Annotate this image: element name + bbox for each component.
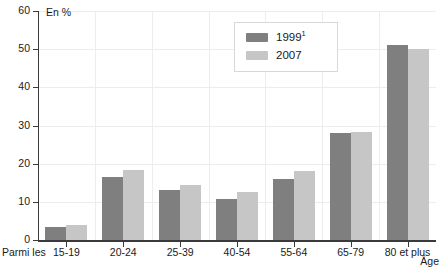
bar-2007-25-39 (180, 185, 201, 240)
unit-label: En % (46, 6, 71, 18)
gridline-vertical (209, 11, 210, 240)
bar-1999-25-39 (159, 190, 180, 240)
y-axis-tick (33, 87, 38, 88)
gridline-vertical (95, 11, 96, 240)
gridline-horizontal (38, 164, 436, 165)
bar-1999-65-79 (330, 133, 351, 240)
gridline-horizontal (38, 87, 436, 88)
gridline-horizontal (38, 11, 436, 12)
legend: 19991 2007 (234, 22, 338, 72)
legend-label-1999: 19991 (276, 30, 306, 44)
y-axis-tick-label: 40 (6, 81, 30, 91)
y-axis-labels: 0102030405060 (0, 0, 30, 268)
y-axis-tick-label: 20 (6, 158, 30, 168)
bar-1999-20-24 (102, 177, 123, 240)
y-axis-tick (33, 202, 38, 203)
bar-1999-40-54 (216, 199, 237, 240)
legend-swatch-2007 (246, 51, 268, 60)
x-axis-tick-label: 80 et plus (363, 246, 443, 258)
y-axis-tick-label: 0 (6, 234, 30, 244)
y-axis-tick-label: 30 (6, 120, 30, 130)
gridline-vertical (379, 11, 380, 240)
y-axis-tick (33, 126, 38, 127)
bar-2007-80-et-plus (408, 49, 429, 240)
y-axis-line (38, 11, 39, 241)
bar-1999-55-64 (273, 179, 294, 240)
gridline-horizontal (38, 126, 436, 127)
y-axis-tick (33, 49, 38, 50)
gridline-vertical (152, 11, 153, 240)
legend-label-2007: 2007 (276, 48, 302, 62)
bar-2007-40-54 (237, 192, 258, 240)
bar-2007-15-19 (66, 225, 87, 240)
y-axis-tick-label: 50 (6, 43, 30, 53)
bar-2007-55-64 (294, 171, 315, 240)
y-axis-tick-label: 60 (6, 5, 30, 15)
y-axis-tick-label: 10 (6, 196, 30, 206)
bar-1999-15-19 (45, 227, 66, 240)
bar-chart: 0102030405060 En % Parmi les Âge 19991 2… (0, 0, 443, 268)
bar-1999-80-et-plus (387, 45, 408, 240)
bar-2007-20-24 (123, 170, 144, 240)
bar-2007-65-79 (351, 132, 372, 240)
y-axis-tick (33, 11, 38, 12)
y-axis-tick (33, 240, 38, 241)
legend-swatch-1999 (246, 33, 268, 42)
y-axis-tick (33, 164, 38, 165)
